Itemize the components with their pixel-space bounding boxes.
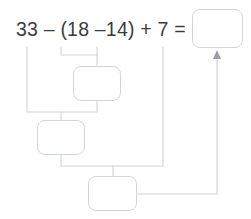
answer-box-step-1-paren[interactable] (73, 66, 121, 101)
operator-minus-1: – (44, 18, 55, 40)
math-worksheet-canvas: 33 – (18 –14) + 7 = (0, 0, 251, 219)
answer-box-final-answer[interactable] (192, 9, 243, 48)
operand-18: 18 (67, 18, 89, 40)
operand-14: 14 (106, 18, 128, 40)
arrow-to-final-answer-icon (213, 50, 221, 59)
connector-step3-to-final-answer (137, 55, 217, 194)
operator-minus-2: – (95, 18, 106, 40)
close-paren: ) (128, 18, 135, 40)
operator-plus: + (140, 18, 152, 40)
expression-line: 33 – (18 –14) + 7 = (16, 16, 186, 42)
answer-box-step-3-add[interactable] (88, 176, 137, 211)
connector-bracket-paren-group (61, 47, 97, 55)
answer-box-step-2-subtract[interactable] (37, 120, 85, 155)
operand-7: 7 (158, 18, 169, 40)
equals-sign: = (174, 18, 186, 40)
operand-33: 33 (16, 18, 38, 40)
